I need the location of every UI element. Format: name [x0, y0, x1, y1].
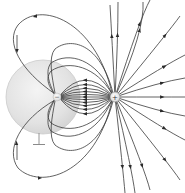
field-lines-canvas: − + [0, 0, 185, 193]
positive-charge: + [110, 92, 120, 102]
positive-charge-symbol: + [112, 94, 118, 102]
field-line [115, 16, 180, 97]
field-line [115, 55, 185, 97]
negative-charge-symbol: − [54, 93, 59, 100]
negative-charge: − [53, 93, 61, 101]
field-line [115, 78, 185, 97]
field-line [115, 2, 118, 97]
field-line [115, 0, 150, 97]
field-line [115, 97, 125, 193]
field-line [110, 5, 115, 97]
field-line [115, 97, 185, 116]
field-line [115, 97, 135, 193]
ground-icon [33, 133, 45, 145]
field-line [115, 97, 185, 140]
field-diagram: − + [0, 0, 185, 193]
arrow-icon [35, 16, 38, 17]
